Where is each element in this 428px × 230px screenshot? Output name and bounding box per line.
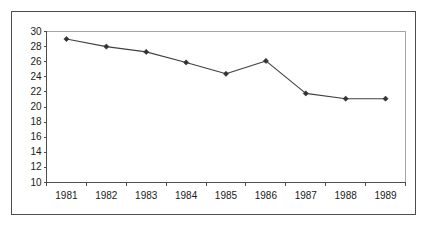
y-axis-tick-label: 22 [18,86,42,97]
data-point-marker [144,49,149,54]
x-axis-tick-label: 1987 [286,190,326,201]
chart-container: 1012141618202224262830 19811982198319841… [0,0,428,230]
x-axis-tick-label: 1988 [326,190,366,201]
plot-area-border [47,32,406,183]
y-axis-tick-label: 24 [18,71,42,82]
y-axis-tick-label: 18 [18,116,42,127]
x-axis-tick-label: 1985 [206,190,246,201]
data-point-marker [383,96,388,101]
x-axis-tick-label: 1986 [246,190,286,201]
x-axis-tick-label: 1983 [126,190,166,201]
y-axis-tick-label: 28 [18,41,42,52]
x-axis-tick-label: 1982 [86,190,126,201]
x-axis-tick-label: 1989 [366,190,406,201]
y-axis-tick-label: 12 [18,161,42,172]
data-point-marker [223,71,228,76]
data-point-marker [64,36,69,41]
y-axis-tick-label: 30 [18,26,42,37]
y-axis-tick-label: 14 [18,146,42,157]
y-axis-tick-label: 10 [18,177,42,188]
x-axis-tick-label: 1981 [47,190,87,201]
series-markers-1 [64,36,388,101]
x-axis-tick-label: 1984 [166,190,206,201]
data-point-marker [104,44,109,49]
y-axis-tick-label: 26 [18,56,42,67]
y-axis-tick-label: 16 [18,131,42,142]
data-point-marker [343,96,348,101]
series-line-1 [66,39,385,99]
y-axis-tick-label: 20 [18,101,42,112]
data-point-marker [184,60,189,65]
